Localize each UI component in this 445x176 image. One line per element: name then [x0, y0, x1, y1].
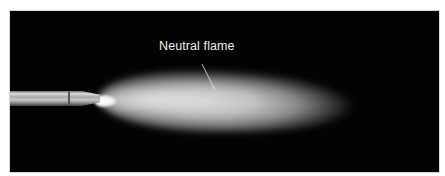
nozzle-seam [68, 92, 70, 105]
flame-core-glow [102, 85, 262, 115]
annotation-label: Neutral flame [159, 39, 235, 53]
torch-nozzle [10, 91, 100, 106]
flame-photo [10, 11, 439, 172]
